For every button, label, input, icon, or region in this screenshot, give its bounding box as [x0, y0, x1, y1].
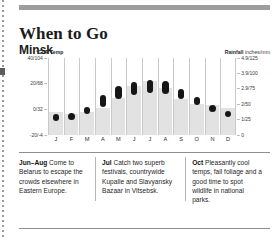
month-label: J: [48, 136, 64, 142]
seasonal-note: Jul Catch two superb festivals, countryw…: [95, 158, 185, 205]
note-text: Catch two superb festivals, countrywide …: [102, 159, 172, 194]
month-label: N: [205, 136, 221, 142]
climate-chart: 40/104 –20/68 –0/32 –-20/-4 – – 4.9/125–…: [19, 58, 270, 140]
seasonal-note: Oct Pleasantly cool temps, fall foliage …: [185, 158, 270, 205]
month-column: [79, 58, 95, 135]
page-title: When to Go: [19, 24, 108, 44]
guide-page: When to Go Minsk °C/°F Temp Rainfall inc…: [14, 0, 280, 240]
month-label: A: [95, 136, 111, 142]
seasonal-note: Jun–Aug Come to Belarus to escape the cr…: [19, 158, 95, 205]
rain-tick-label: – 0: [237, 133, 244, 138]
month-column: [111, 58, 127, 135]
month-label: J: [142, 136, 158, 142]
temperature-range-bar: [115, 86, 121, 99]
month-label: D: [220, 136, 236, 142]
header-rule: [19, 5, 270, 10]
month-axis-labels: JFMAMJJASOND: [48, 136, 236, 146]
month-label: A: [158, 136, 174, 142]
rain-tick-label: – 3.9/100: [237, 71, 258, 76]
rain-tick-label: – 4.9/125: [237, 56, 258, 61]
page-edge-tab: [0, 68, 5, 75]
month-label: J: [126, 136, 142, 142]
section-divider-bottom: [19, 228, 270, 229]
rainfall-bar: [112, 98, 126, 135]
month-column: [48, 58, 64, 135]
rain-tick-label: – 1/25: [237, 117, 251, 122]
temperature-range-bar: [194, 97, 200, 106]
note-period: Oct: [192, 159, 203, 166]
note-period: Jun–Aug: [19, 159, 47, 166]
temp-axis-word: Temp: [50, 49, 63, 55]
temp-axis-ticks: 40/104 –20/68 –0/32 –-20/-4 –: [17, 58, 47, 135]
page-perforation-edge: [2, 0, 4, 240]
month-column: [95, 58, 111, 135]
rainfall-bar: [174, 99, 188, 135]
seasonal-notes: Jun–Aug Come to Belarus to escape the cr…: [19, 158, 270, 205]
temperature-range-bar: [131, 82, 137, 95]
rainfall-bar: [190, 104, 204, 135]
month-column: [189, 58, 205, 135]
month-column: [64, 58, 80, 135]
section-divider-top: [19, 152, 270, 153]
temperature-range-bar: [209, 105, 215, 111]
month-column: [142, 58, 158, 135]
temp-tick-label: 20/68 –: [30, 81, 47, 86]
temperature-range-bar: [53, 114, 59, 120]
note-text: Pleasantly cool temps, fall foliage and …: [192, 159, 262, 203]
note-period: Jul: [102, 159, 112, 166]
temperature-range-bar: [68, 113, 74, 119]
temperature-range-bar: [100, 95, 106, 107]
column-gridline: [235, 58, 236, 135]
rain-tick-label: – 2.9/75: [237, 86, 255, 91]
month-label: F: [64, 136, 80, 142]
temperature-range-bar: [162, 81, 168, 94]
month-column: [158, 58, 174, 135]
temperature-range-bar: [147, 80, 153, 93]
month-column: [220, 58, 236, 135]
rain-tick-label: – 2/50: [237, 102, 251, 107]
rain-axis-ticks: – 4.9/125– 3.9/100– 2.9/75– 2/50– 1/25– …: [237, 58, 275, 135]
temp-tick-label: 40/104 –: [28, 56, 47, 61]
month-column: [205, 58, 221, 135]
temp-tick-label: -20/-4 –: [30, 133, 47, 138]
month-label: S: [173, 136, 189, 142]
rainfall-bar: [96, 108, 110, 135]
month-column: [126, 58, 142, 135]
temperature-range-bar: [178, 89, 184, 99]
month-label: M: [79, 136, 95, 142]
temp-tick-label: 0/32 –: [33, 107, 47, 112]
chart-plot-area: [48, 58, 236, 135]
month-column: [173, 58, 189, 135]
rainfall-bar: [80, 112, 94, 135]
rainfall-bar: [159, 88, 173, 135]
month-label: M: [111, 136, 127, 142]
month-label: O: [189, 136, 205, 142]
